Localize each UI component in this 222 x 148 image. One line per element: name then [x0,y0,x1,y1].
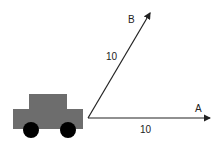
car-wheel-rear [60,122,76,138]
vector-diagram: A 10 B 10 [0,0,222,148]
car-cabin [29,94,67,110]
vector-a-label: A [195,103,202,114]
car-wheel-front [23,122,39,138]
vector-b-magnitude: 10 [106,51,118,62]
vector-b-label: B [128,14,135,25]
vector-a-magnitude: 10 [140,124,152,135]
vector-b-arrow [88,13,150,118]
car-icon [13,94,83,138]
